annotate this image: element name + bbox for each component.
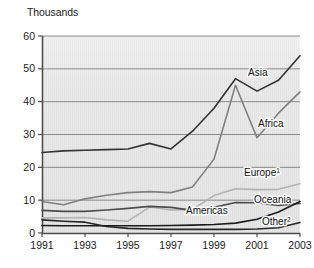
x-axis-tick-labels: 1991199319951997199920012003 xyxy=(30,239,312,251)
chart-canvas: 0102030405060 19911993199519971999200120… xyxy=(0,0,314,268)
oceania-label: Oceania xyxy=(254,194,292,205)
x-tick-label: 1993 xyxy=(73,239,97,251)
americas-label: Americas xyxy=(186,205,228,216)
line-chart: Thousands 0102030405060 1991199319951997… xyxy=(0,0,314,268)
y-axis-tick-labels: 0102030405060 xyxy=(23,30,35,239)
y-tick-label: 40 xyxy=(23,95,35,107)
x-tick-label: 2003 xyxy=(288,239,312,251)
x-tick-label: 1999 xyxy=(202,239,226,251)
europe-label: Europe1 xyxy=(244,167,280,179)
asia-label: Asia xyxy=(248,67,268,78)
y-tick-label: 50 xyxy=(23,62,35,74)
y-tick-label: 60 xyxy=(23,30,35,42)
x-tick-label: 2001 xyxy=(245,239,269,251)
y-tick-label: 20 xyxy=(23,161,35,173)
x-tick-label: 1997 xyxy=(159,239,183,251)
y-axis-ticks xyxy=(38,36,42,233)
y-tick-label: 0 xyxy=(29,227,35,239)
y-tick-label: 30 xyxy=(23,128,35,140)
africa-label: Africa xyxy=(258,118,284,129)
x-tick-label: 1995 xyxy=(116,239,140,251)
x-tick-label: 1991 xyxy=(30,239,54,251)
y-tick-label: 10 xyxy=(23,194,35,206)
other-label: Other2 xyxy=(262,216,291,228)
